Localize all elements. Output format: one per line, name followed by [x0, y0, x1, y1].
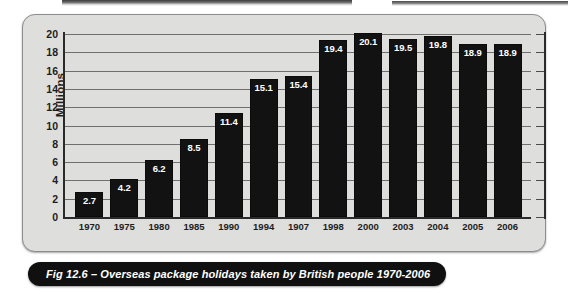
- bar-value-label: 15.4: [285, 79, 313, 90]
- x-tick-label: 1975: [107, 221, 142, 232]
- x-tick-label: 1998: [316, 221, 351, 232]
- y-axis-tick-labels: 02468101214161820: [26, 34, 62, 217]
- y-axis-line-right: [544, 32, 546, 219]
- y-tick-label: 4: [52, 174, 58, 186]
- bar-value-label: 19.8: [424, 39, 452, 50]
- bar: 20.1: [354, 33, 382, 217]
- bar-value-label: 15.1: [250, 82, 278, 93]
- bar: 8.5: [180, 139, 208, 217]
- bar-value-label: 20.1: [354, 36, 382, 47]
- x-tick-label: 1907: [281, 221, 316, 232]
- bar: 11.4: [215, 113, 243, 217]
- x-tick-label: 1994: [246, 221, 281, 232]
- bar-series: 2.74.26.28.511.415.115.419.420.119.519.8…: [64, 34, 531, 217]
- x-tick-label: 2000: [351, 221, 386, 232]
- y-tick-label: 14: [46, 83, 58, 95]
- bar: 15.4: [285, 76, 313, 217]
- scan-strip-right: [392, 1, 568, 6]
- scan-edge-artifacts: [0, 0, 568, 14]
- bar-value-label: 11.4: [215, 116, 243, 127]
- bar-value-label: 19.5: [389, 42, 417, 53]
- y-tick-label: 0: [52, 211, 58, 223]
- figure-caption-text: Fig 12.6 – Overseas package holidays tak…: [46, 268, 430, 280]
- bar: 18.9: [459, 44, 487, 217]
- x-tick-label: 2006: [490, 221, 525, 232]
- y-tick-label: 12: [46, 101, 58, 113]
- bar-value-label: 18.9: [494, 47, 522, 58]
- y-tick-label: 20: [46, 28, 58, 40]
- y-tick-label: 16: [46, 65, 58, 77]
- bar-value-label: 18.9: [459, 47, 487, 58]
- y-tick-label: 2: [52, 193, 58, 205]
- x-tick-label: 2003: [386, 221, 421, 232]
- y-tick-label: 10: [46, 120, 58, 132]
- bar: 19.4: [319, 40, 347, 218]
- y-tick-label: 8: [52, 138, 58, 150]
- bar: 4.2: [110, 179, 138, 217]
- bar: 19.8: [424, 36, 452, 217]
- bar-value-label: 6.2: [145, 163, 173, 174]
- scan-strip-left: [62, 0, 352, 6]
- bar: 6.2: [145, 160, 173, 217]
- figure-caption: Fig 12.6 – Overseas package holidays tak…: [28, 262, 446, 286]
- bar-value-label: 4.2: [110, 182, 138, 193]
- bar-value-label: 2.7: [75, 195, 103, 206]
- bar: 18.9: [494, 44, 522, 217]
- y-tick-label: 18: [46, 46, 58, 58]
- x-axis-tick-labels: 1970197519801985199019941907199820002003…: [64, 221, 531, 239]
- bar-value-label: 19.4: [319, 43, 347, 54]
- x-tick-label: 1990: [211, 221, 246, 232]
- x-tick-label: 1970: [72, 221, 107, 232]
- x-tick-label: 2004: [420, 221, 455, 232]
- bar: 19.5: [389, 39, 417, 217]
- figure-panel: Millions 02468101214161820 2.74.26.28.51…: [22, 14, 546, 252]
- bar-value-label: 8.5: [180, 142, 208, 153]
- x-tick-label: 1985: [177, 221, 212, 232]
- x-tick-label: 1980: [142, 221, 177, 232]
- x-tick-label: 2005: [455, 221, 490, 232]
- y-tick-label: 6: [52, 156, 58, 168]
- bar: 15.1: [250, 79, 278, 217]
- bar: 2.7: [75, 192, 103, 217]
- gridline: [64, 217, 531, 219]
- plot-area: 02468101214161820 2.74.26.28.511.415.115…: [64, 34, 531, 217]
